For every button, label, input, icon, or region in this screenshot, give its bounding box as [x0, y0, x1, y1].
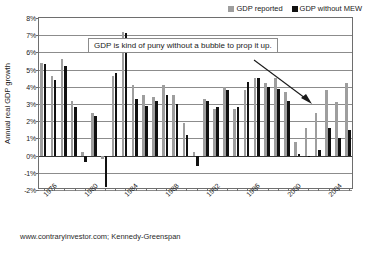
legend-swatch-nomew [292, 6, 298, 12]
x-axis-tick-mark [197, 188, 198, 191]
bar-reported-1997 [254, 78, 257, 155]
x-axis-tick-mark [308, 188, 309, 191]
bar-nomew-1979 [74, 107, 77, 155]
bar-reported-1999 [274, 78, 277, 155]
bar-nomew-1993 [216, 107, 219, 155]
bar-group [293, 18, 303, 188]
bar-reported-1982 [101, 156, 104, 159]
bar-group [344, 18, 354, 188]
x-axis-tick-mark [186, 188, 187, 191]
x-axis-tick-mark [75, 188, 76, 191]
bar-reported-1989 [172, 95, 175, 155]
y-axis-tick-label: 5% [26, 66, 36, 73]
bar-nomew-1994 [226, 90, 229, 155]
bar-nomew-1977 [54, 80, 57, 156]
x-axis-tick-mark [268, 188, 269, 191]
annotation-callout: GDP is kind of puny without a bubble to … [88, 38, 278, 53]
y-axis-tick-label: -2% [24, 187, 36, 194]
bar-group [59, 18, 69, 188]
y-axis-tick-label: 0% [26, 152, 36, 159]
x-axis-tick-mark [217, 188, 218, 191]
bar-reported-1976 [40, 63, 43, 156]
x-axis-tick-mark [146, 188, 147, 191]
source-caption: www.contraryinvestor.com; Kennedy-Greens… [20, 232, 181, 241]
bar-reported-1990 [183, 123, 186, 156]
bar-reported-1991 [193, 152, 196, 155]
bar-reported-1985 [132, 85, 135, 156]
y-axis-tick-label: 6% [26, 49, 36, 56]
x-axis-tick-mark [115, 188, 116, 191]
bar-reported-1992 [203, 99, 206, 156]
legend-item: GDP without MEW [292, 4, 362, 13]
bar-group [313, 18, 323, 188]
bar-nomew-1981 [94, 116, 97, 156]
x-axis-tick-mark [136, 188, 137, 191]
bar-nomew-2005 [338, 138, 341, 155]
y-axis-tick-label: 7% [26, 32, 36, 39]
bar-nomew-1999 [277, 89, 280, 156]
x-axis-tick-mark [278, 188, 279, 191]
bar-group [334, 18, 344, 188]
bar-group [303, 18, 313, 188]
bar-group [324, 18, 334, 188]
bar-nomew-2004 [328, 128, 331, 156]
x-axis-tick-mark [227, 188, 228, 191]
bar-nomew-1991 [196, 156, 199, 166]
bar-reported-2003 [315, 113, 318, 156]
x-axis-tick-mark [257, 188, 258, 191]
bar-nomew-1986 [145, 106, 148, 156]
x-axis-tick-mark [298, 188, 299, 191]
x-axis-tick-mark [105, 188, 106, 191]
bar-reported-1994 [223, 87, 226, 156]
bar-nomew-1987 [155, 101, 158, 156]
bar-nomew-2001 [298, 154, 301, 156]
bar-nomew-2000 [287, 101, 290, 156]
bar-nomew-1978 [64, 66, 67, 155]
y-axis-tick-label: 3% [26, 101, 36, 108]
bar-nomew-2006 [348, 130, 351, 156]
bar-group [39, 18, 49, 188]
bar-nomew-1992 [206, 101, 209, 156]
bar-reported-1986 [142, 95, 145, 155]
bar-nomew-1980 [84, 156, 87, 163]
x-axis-tick-mark [237, 188, 238, 191]
gdp-growth-chart: Annual real GDP growth 8%7%6%5%4%3%2%1%0… [0, 0, 368, 254]
bar-nomew-1995 [237, 107, 240, 155]
y-axis-tick-label: -1% [24, 169, 36, 176]
x-axis-tick-mark [156, 188, 157, 191]
bar-nomew-1983 [115, 73, 118, 156]
legend-label: GDP reported [236, 4, 282, 13]
bar-reported-1983 [112, 76, 115, 155]
y-axis-tick-label: 8% [26, 15, 36, 22]
x-axis-tick-mark [176, 188, 177, 191]
bar-reported-2001 [294, 142, 297, 156]
bar-reported-1979 [71, 101, 74, 156]
bar-nomew-1988 [166, 95, 169, 155]
x-axis-tick-mark [64, 188, 65, 191]
bar-nomew-2002 [308, 156, 311, 157]
bar-group [69, 18, 79, 188]
bar-nomew-2003 [318, 150, 321, 155]
x-axis-tick-mark [318, 188, 319, 191]
legend-item: GDP reported [228, 4, 282, 13]
legend-label: GDP without MEW [300, 4, 362, 13]
bar-reported-1980 [81, 152, 84, 155]
x-axis-tick-mark [339, 188, 340, 191]
bar-nomew-1976 [44, 64, 47, 155]
y-axis-tick-label: 1% [26, 135, 36, 142]
bar-reported-1977 [51, 76, 54, 155]
bar-reported-1995 [233, 109, 236, 155]
bar-reported-1996 [244, 90, 247, 155]
bar-reported-1993 [213, 109, 216, 155]
bar-reported-2004 [325, 90, 328, 155]
x-axis-tick-mark [349, 188, 350, 191]
legend-swatch-reported [228, 6, 234, 12]
x-axis-tick-mark [95, 188, 96, 191]
x-axis-tick-mark [54, 188, 55, 191]
bar-reported-2006 [345, 83, 348, 155]
y-axis-tick-mark [36, 190, 39, 191]
chart-legend: GDP reportedGDP without MEW [226, 3, 364, 14]
bar-reported-2000 [284, 92, 287, 156]
y-axis-tick-label: 4% [26, 83, 36, 90]
bar-nomew-1998 [267, 87, 270, 156]
